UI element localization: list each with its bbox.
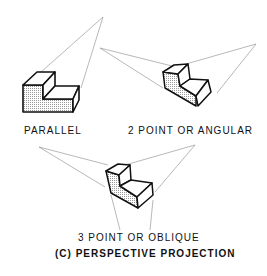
two-point-view — [100, 44, 256, 106]
label-parallel: PARALLEL — [24, 125, 82, 136]
three-point-block — [106, 164, 153, 208]
two-point-block — [163, 64, 211, 106]
three-point-view — [39, 145, 195, 230]
parallel-view — [23, 17, 103, 112]
perspective-projection-figure: PARALLEL 2 POINT OR ANGULAR 3 POINT OR O… — [0, 0, 267, 276]
figure-caption: (C) PERSPECTIVE PROJECTION — [55, 248, 235, 259]
label-two-point: 2 POINT OR ANGULAR — [128, 125, 253, 136]
label-three-point: 3 POINT OR OBLIQUE — [78, 232, 200, 243]
parallel-block — [23, 72, 79, 112]
